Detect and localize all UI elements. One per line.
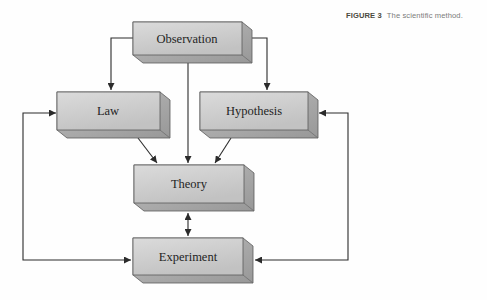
node-hypothesis: Hypothesis [200, 92, 318, 138]
node-observation-label: Observation [156, 32, 218, 46]
node-experiment: Experiment [133, 238, 253, 283]
edge-law-theory [138, 138, 157, 163]
figure-panel: Observation Law Hypothesis Theory [0, 0, 487, 300]
node-observation: Observation [133, 22, 252, 63]
figure-number-label: FIGURE 3 [346, 11, 382, 20]
node-hypothesis-label: Hypothesis [226, 104, 282, 118]
node-law: Law [57, 92, 170, 138]
diagram-edges [23, 38, 348, 260]
node-experiment-label: Experiment [159, 250, 218, 264]
figure-caption: FIGURE 3The scientific method. [346, 11, 485, 20]
node-theory: Theory [134, 165, 254, 211]
edge-hypothesis-theory [215, 138, 231, 163]
edge-observation-law [111, 38, 133, 90]
node-law-label: Law [97, 104, 119, 118]
figure-title-text: The scientific method. [387, 11, 463, 20]
edge-observation-hypothesis [252, 38, 267, 90]
scientific-method-diagram: Observation Law Hypothesis Theory [0, 0, 487, 300]
node-theory-label: Theory [171, 177, 208, 191]
